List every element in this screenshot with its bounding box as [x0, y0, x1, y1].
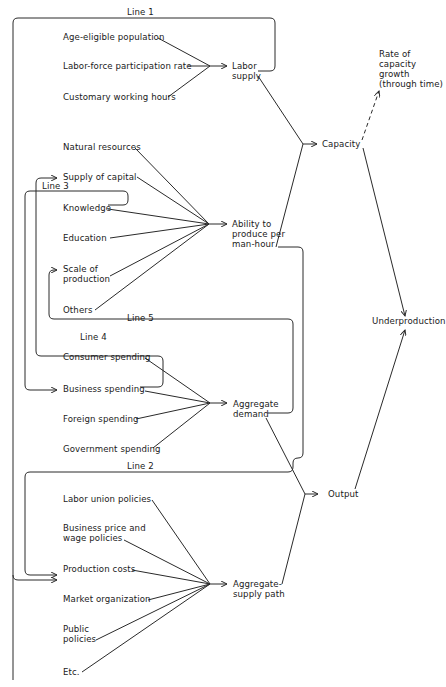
node-supply-of-capital: Supply of capital	[63, 172, 137, 182]
line-3-label: Line 3	[42, 181, 69, 191]
node-labor-supply: Labor supply	[232, 61, 261, 81]
feedback-line-3-to-business	[25, 385, 57, 390]
node-customary-working-hours: Customary working hours	[63, 92, 176, 102]
line-5-label: Line 5	[127, 313, 154, 323]
node-rate-of-capacity-growth: Rate of capacity growth (through time)	[379, 49, 443, 89]
node-underproduction: Underproduction	[372, 316, 446, 326]
edge-supply-to-output	[282, 494, 305, 584]
node-production-costs: Production costs	[63, 564, 135, 574]
line-1-label: Line 1	[127, 7, 154, 17]
edge-market-to-supply	[148, 584, 210, 600]
edge-demand-to-output	[266, 418, 305, 494]
node-business-price-wage-policies: Business price and wage policies	[63, 523, 146, 543]
edge-business-to-demand	[145, 391, 210, 403]
edge-prodcost-to-supply	[132, 570, 210, 584]
node-labor-force-participation: Labor-force participation rate	[63, 61, 192, 71]
node-age-eligible-population: Age-eligible population	[63, 32, 165, 42]
node-market-organization: Market organization	[63, 594, 151, 604]
node-others: Others	[63, 305, 92, 315]
node-education: Education	[63, 233, 107, 243]
edge-scale-to-productivity	[110, 224, 209, 276]
edge-capital-to-productivity	[137, 177, 209, 224]
node-consumer-spending: Consumer spending	[63, 352, 151, 362]
node-aggregate-demand: Aggregate demand	[233, 399, 279, 419]
node-etc: Etc.	[63, 667, 80, 677]
edge-bizprice-to-supply	[124, 540, 210, 584]
node-public-policies: Public policies	[63, 624, 96, 644]
node-aggregate-supply-path: Aggregate- supply path	[233, 579, 285, 599]
edge-knowledge-to-productivity	[108, 209, 209, 224]
node-business-spending: Business spending	[63, 384, 145, 394]
node-foreign-spending: Foreign spending	[63, 414, 139, 424]
edge-consumer-to-demand	[145, 358, 210, 403]
feedback-line-1-end	[13, 575, 57, 580]
line-4-label: Line 4	[80, 332, 107, 342]
flow-diagram	[0, 0, 446, 687]
edge-output-to-underproduction	[355, 330, 405, 489]
edge-natural-to-productivity	[135, 148, 209, 224]
feedback-line-4-rail	[36, 178, 57, 351]
edge-education-to-productivity	[110, 224, 209, 238]
edge-capacity-to-growth	[362, 91, 379, 140]
edge-government-to-demand	[153, 403, 210, 448]
node-government-spending: Government spending	[63, 444, 161, 454]
node-knowledge: Knowledge	[63, 203, 111, 213]
line-2-label: Line 2	[127, 461, 154, 471]
node-natural-resources: Natural resources	[63, 142, 141, 152]
edge-capacity-to-underproduction	[363, 148, 405, 316]
edge-labor-to-capacity	[258, 76, 303, 144]
edge-others-to-productivity	[95, 224, 209, 310]
edge-foreign-to-demand	[136, 403, 210, 419]
feedback-line-5	[278, 247, 303, 458]
node-ability-to-produce: Ability to produce per man-hour	[232, 219, 285, 249]
node-labor-union-policies: Labor union policies	[63, 494, 151, 504]
node-scale-of-production: Scale of production	[63, 264, 110, 284]
edge-union-to-supply	[152, 500, 210, 584]
node-output: Output	[328, 489, 358, 499]
edge-public-to-supply	[96, 584, 210, 640]
node-capacity: Capacity	[322, 139, 360, 149]
